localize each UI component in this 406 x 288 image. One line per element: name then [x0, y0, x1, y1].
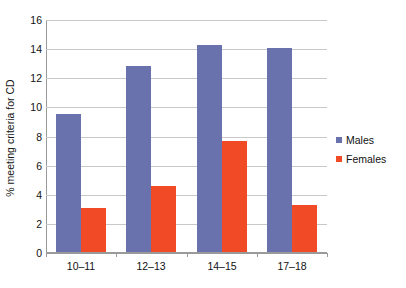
x-axis-tick-mark [46, 253, 47, 257]
legend-swatch-icon [336, 156, 342, 162]
y-axis-tick-label: 14 [22, 43, 42, 55]
bar-males-12-13 [126, 66, 151, 252]
y-axis-tick-label: 8 [22, 131, 42, 143]
y-axis-tick-label: 0 [22, 247, 42, 259]
bar-females-12-13 [151, 186, 176, 252]
x-axis-tick-label: 14–15 [207, 260, 236, 272]
x-axis-tick-mark [116, 253, 117, 257]
legend-item-males: Males [336, 132, 402, 148]
legend-item-females: Females [336, 151, 402, 167]
y-axis-ticks: 0246810121416 [16, 20, 42, 253]
bar-chart: % meeting criteria for CD 0246810121416 … [0, 0, 406, 288]
y-axis-title-label: % meeting criteria for CD [4, 79, 16, 196]
plot-area [46, 20, 327, 253]
legend-swatch-icon [336, 137, 342, 143]
x-axis-tick-label: 10–11 [67, 260, 95, 272]
bar-males-17-18 [267, 48, 292, 252]
y-axis-tick-label: 12 [22, 72, 42, 84]
grid-line [46, 20, 327, 21]
bar-females-17-18 [292, 205, 317, 252]
x-axis-tick-label: 17–18 [277, 260, 306, 272]
x-axis-tick-mark [327, 253, 328, 257]
legend-label: Males [346, 134, 374, 146]
legend-label: Females [346, 153, 386, 165]
bar-females-14-15 [222, 141, 247, 252]
x-axis-labels: 10–1112–1314–1517–18 [46, 260, 327, 276]
x-axis-tick-label: 12–13 [136, 260, 165, 272]
y-axis-tick-label: 16 [22, 14, 42, 26]
y-axis-tick-label: 6 [22, 160, 42, 172]
x-axis-tick-mark [187, 253, 188, 257]
bar-males-14-15 [197, 45, 222, 252]
x-axis-tick-mark [257, 253, 258, 257]
y-axis-tick-label: 10 [22, 101, 42, 113]
y-axis-tick-label: 4 [22, 189, 42, 201]
bar-females-10-11 [81, 208, 106, 252]
bar-males-10-11 [56, 114, 81, 252]
y-axis-title: % meeting criteria for CD [3, 22, 17, 254]
chart-legend: MalesFemales [336, 132, 402, 170]
y-axis-tick-label: 2 [22, 218, 42, 230]
